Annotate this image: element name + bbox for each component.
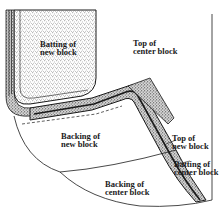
- label-backing-center-block: Backing of center block: [105, 180, 149, 196]
- label-top-new-block: Top of new block: [172, 134, 209, 150]
- label-batting-center-block: Batting of center block: [174, 160, 218, 176]
- quilt-layers-diagram: Batting of new block Top of center block…: [0, 0, 224, 214]
- label-top-center-block: Top of center block: [133, 39, 177, 55]
- label-backing-new-block: Backing of new block: [61, 132, 100, 148]
- label-batting-new-block: Batting of new block: [40, 40, 77, 56]
